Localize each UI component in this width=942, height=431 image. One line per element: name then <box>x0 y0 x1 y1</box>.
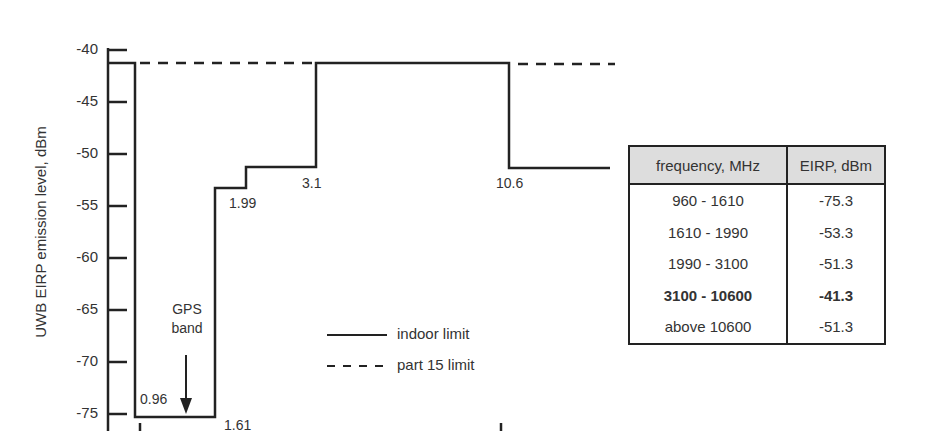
emission-limits-table: frequency, MHz EIRP, dBm 960 - 1610-75.3… <box>628 145 886 345</box>
table-row: 960 - 1610-75.3 <box>629 184 885 217</box>
arrow-down-icon <box>180 398 192 414</box>
legend-indoor-limit: indoor limit <box>397 325 470 342</box>
annotation-0-96: 0.96 <box>140 391 167 407</box>
y-tick-label: -60 <box>58 248 98 265</box>
y-tick-label: -75 <box>58 404 98 421</box>
y-tick-label: -50 <box>58 144 98 161</box>
y-ticks <box>108 50 127 414</box>
table-header-eirp: EIRP, dBm <box>787 146 885 184</box>
annotation-10-6: 10.6 <box>496 175 523 191</box>
y-axis-label: UWB EIRP emission level, dBm <box>32 126 49 337</box>
table-row: above 10600-51.3 <box>629 311 885 344</box>
table-header-frequency: frequency, MHz <box>629 146 787 184</box>
indoor-limit-line <box>108 63 610 417</box>
gps-band-label: GPS band <box>157 300 217 338</box>
annotation-1-61: 1.61 <box>224 417 251 431</box>
y-tick-label: -55 <box>58 196 98 213</box>
table-row: 1610 - 1990-53.3 <box>629 217 885 249</box>
annotation-1-99: 1.99 <box>229 195 256 211</box>
y-tick-label: -70 <box>58 352 98 369</box>
table-row: 3100 - 10600-41.3 <box>629 280 885 312</box>
table-row: 1990 - 3100-51.3 <box>629 248 885 280</box>
y-tick-label: -65 <box>58 300 98 317</box>
y-tick-label: -40 <box>58 40 98 57</box>
y-tick-label: -45 <box>58 92 98 109</box>
legend-part15-limit: part 15 limit <box>397 356 475 373</box>
annotation-3-1: 3.1 <box>302 175 321 191</box>
